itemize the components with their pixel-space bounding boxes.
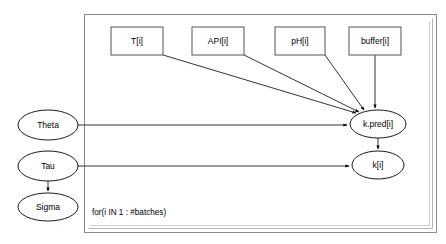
- node-api-label: API[i]: [208, 36, 228, 46]
- node-ph-label: pH[i]: [291, 36, 308, 46]
- edge-api-to-kpred: [244, 55, 359, 112]
- edge-group: [48, 55, 378, 191]
- node-api[interactable]: API[i]: [192, 27, 244, 55]
- node-sigma[interactable]: Sigma: [18, 193, 78, 221]
- node-theta-label: Theta: [37, 120, 59, 130]
- node-k-label: k[i]: [373, 160, 384, 170]
- node-sigma-label: Sigma: [36, 202, 60, 212]
- node-tau-label: Tau: [41, 161, 55, 171]
- node-tau[interactable]: Tau: [18, 151, 78, 181]
- node-buffer-label: buffer[i]: [361, 36, 389, 46]
- node-buffer[interactable]: buffer[i]: [349, 27, 401, 55]
- node-k[interactable]: k[i]: [352, 151, 404, 179]
- node-kpred[interactable]: k.pred[i]: [350, 110, 406, 138]
- dag-diagram: for(i IN 1 : #batches) T[i]: [0, 0, 446, 244]
- node-kpred-label: k.pred[i]: [363, 119, 393, 129]
- diagram-canvas: for(i IN 1 : #batches) T[i]: [0, 0, 446, 244]
- node-theta[interactable]: Theta: [18, 110, 78, 140]
- node-ph[interactable]: pH[i]: [275, 27, 325, 55]
- edge-t-to-kpred: [163, 55, 356, 113]
- node-t[interactable]: T[i]: [111, 27, 163, 55]
- plate-label: for(i IN 1 : #batches): [92, 208, 166, 217]
- node-t-label: T[i]: [131, 36, 143, 46]
- edge-ph-to-kpred: [325, 55, 364, 110]
